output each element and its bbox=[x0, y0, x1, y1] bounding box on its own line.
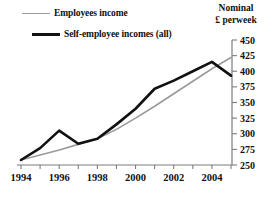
y-tick-label: 250 bbox=[240, 160, 255, 171]
chart-container: Employees income Self-employee incomes (… bbox=[0, 0, 275, 202]
y-tick-label: 275 bbox=[240, 144, 255, 155]
y-tick-label: 350 bbox=[240, 97, 255, 108]
axes-layer bbox=[17, 40, 237, 169]
plot-area: 1994199619982000200220042502753003253503… bbox=[0, 0, 275, 202]
y-tick-label: 375 bbox=[240, 81, 255, 92]
x-tick-label: 1994 bbox=[11, 172, 33, 183]
series-layer bbox=[21, 58, 231, 161]
x-tick-label: 2002 bbox=[163, 172, 184, 183]
x-tick-label: 1998 bbox=[87, 172, 108, 183]
x-tick-label: 2004 bbox=[201, 172, 223, 183]
y-tick-label: 450 bbox=[240, 35, 255, 46]
tick-labels-layer: 1994199619982000200220042502753003253503… bbox=[11, 35, 256, 183]
x-tick-label: 1996 bbox=[49, 172, 70, 183]
x-tick-label: 2000 bbox=[125, 172, 146, 183]
y-tick-label: 400 bbox=[240, 66, 255, 77]
y-tick-label: 425 bbox=[240, 50, 255, 61]
y-tick-label: 300 bbox=[240, 128, 255, 139]
series-line-employees-income bbox=[21, 58, 231, 161]
y-tick-label: 325 bbox=[240, 113, 255, 124]
